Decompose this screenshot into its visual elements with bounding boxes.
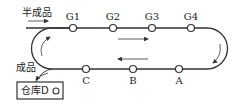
svg-text:G3: G3 <box>145 11 159 22</box>
input-label: 半成品 <box>22 6 52 18</box>
conveyor-track <box>32 28 228 69</box>
station-a: A <box>174 66 183 87</box>
svg-text:G2: G2 <box>106 11 120 22</box>
station-c: C <box>82 66 90 87</box>
station-b: B <box>129 66 136 87</box>
svg-text:G1: G1 <box>66 11 80 22</box>
svg-text:C: C <box>82 75 90 86</box>
right-curve-arrow-icon <box>213 44 220 63</box>
left-curve-arrow-icon <box>41 37 50 56</box>
svg-text:B: B <box>129 75 136 86</box>
warehouse-d: 仓库D <box>17 82 63 99</box>
output-label: 成品 <box>16 62 36 73</box>
svg-text:G4: G4 <box>184 11 198 22</box>
warehouse-label: 仓库D <box>21 84 49 96</box>
svg-text:A: A <box>174 75 183 86</box>
warehouse-station-icon <box>53 88 59 94</box>
output-path <box>36 69 52 82</box>
conveyor-loop-diagram: 半成品 成品 G1 G2 G3 G4 C B A 仓库D <box>0 0 243 111</box>
